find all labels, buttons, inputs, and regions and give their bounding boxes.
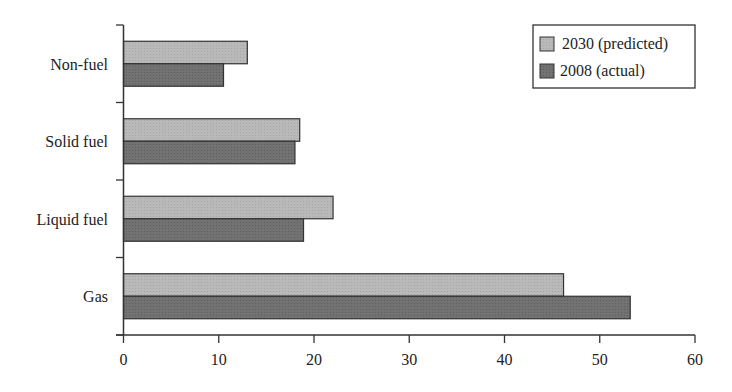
x-tick-label: 40 <box>497 351 513 368</box>
category-label: Non-fuel <box>50 56 108 73</box>
legend: 2030 (predicted) 2008 (actual) <box>533 25 695 88</box>
legend-swatch-2008 <box>540 64 554 78</box>
x-tick-label: 0 <box>120 351 128 368</box>
bar-liquid-fuel-2008 <box>124 219 304 242</box>
category-label: Liquid fuel <box>36 211 108 229</box>
bar-solid-fuel-2008 <box>124 141 295 164</box>
x-axis: 0102030405060 <box>116 335 703 368</box>
category-label: Solid fuel <box>45 133 108 150</box>
legend-swatch-2030 <box>540 37 554 51</box>
bar-liquid-fuel-2030 <box>124 196 334 219</box>
bar-chart: Non-fuelSolid fuelLiquid fuelGas 0102030… <box>0 0 732 392</box>
bar-non-fuel-2008 <box>124 64 224 87</box>
bar-solid-fuel-2030 <box>124 119 300 142</box>
category-label: Gas <box>83 288 108 305</box>
legend-label-2030: 2030 (predicted) <box>562 35 668 53</box>
bar-gas-2030 <box>124 274 564 297</box>
y-axis: Non-fuelSolid fuelLiquid fuelGas <box>36 25 123 335</box>
bar-non-fuel-2030 <box>124 41 248 64</box>
x-tick-label: 20 <box>306 351 322 368</box>
legend-label-2008: 2008 (actual) <box>560 62 645 80</box>
x-tick-label: 50 <box>592 351 608 368</box>
x-tick-label: 10 <box>211 351 227 368</box>
x-tick-label: 30 <box>401 351 417 368</box>
bar-gas-2008 <box>124 296 631 319</box>
x-tick-label: 60 <box>687 351 703 368</box>
